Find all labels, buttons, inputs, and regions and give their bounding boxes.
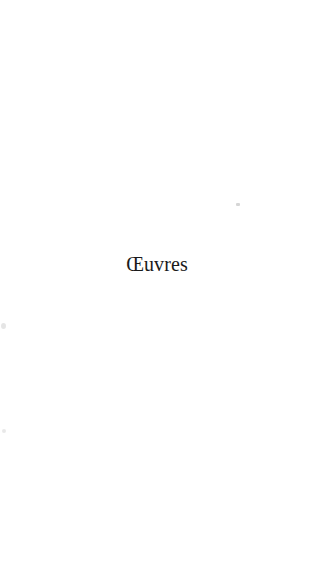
- book-page: Œuvres: [0, 0, 335, 564]
- scan-speck-icon: [2, 429, 6, 433]
- half-title-text: Œuvres: [0, 254, 314, 274]
- scan-speck-icon: [1, 323, 6, 329]
- scan-speck-icon: [236, 203, 240, 206]
